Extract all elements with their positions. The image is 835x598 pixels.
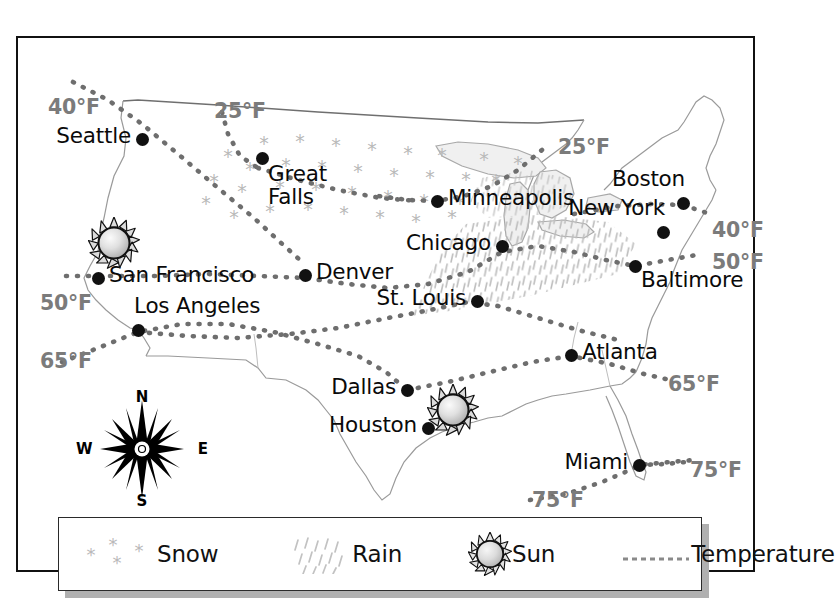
city-dot-icon: [92, 272, 105, 285]
svg-text:*: *: [437, 144, 447, 166]
city-dot-icon: [136, 133, 149, 146]
city-dot-icon: [657, 226, 670, 239]
city-label: Seattle: [56, 126, 131, 146]
svg-text:*: *: [455, 192, 465, 214]
city-dot-icon: [565, 349, 578, 362]
svg-text:*: *: [295, 130, 305, 152]
compass-rose: N S W E: [76, 390, 208, 508]
city-label: Boston: [612, 169, 685, 189]
city-dot-icon: [633, 459, 646, 472]
svg-text:*: *: [461, 168, 471, 190]
svg-text:*: *: [229, 206, 239, 228]
city-label: San Francisco: [109, 265, 254, 285]
svg-text:*: *: [513, 152, 523, 174]
compass-north-label: N: [136, 388, 149, 406]
snow-icon: * * * *: [81, 537, 157, 571]
compass-south-label: S: [137, 492, 148, 510]
city-dot-icon: [132, 324, 145, 337]
svg-text:*: *: [135, 540, 144, 561]
city-label: Minneapolis: [448, 188, 574, 208]
temperature-label: 40°F: [712, 218, 764, 242]
svg-text:*: *: [353, 160, 363, 182]
svg-text:*: *: [311, 178, 321, 200]
svg-text:*: *: [403, 142, 413, 164]
city-label: Atlanta: [582, 342, 658, 362]
svg-text:*: *: [479, 148, 489, 170]
temperature-label: 50°F: [712, 250, 764, 274]
city-label: Miami: [564, 452, 628, 472]
legend-item-sun: Sun: [468, 518, 555, 590]
compass-east-label: E: [198, 440, 208, 458]
temperature-label: 25°F: [558, 135, 610, 159]
temperature-label: 65°F: [668, 372, 720, 396]
city-label: Great Falls: [268, 162, 327, 208]
city-label: Baltimore: [641, 270, 743, 290]
svg-text:*: *: [275, 176, 285, 198]
city-dot-icon: [677, 197, 690, 210]
sun-icon: [468, 532, 512, 576]
temperature-label: 75°F: [532, 488, 584, 512]
svg-text:*: *: [87, 544, 96, 565]
svg-text:*: *: [223, 145, 233, 167]
temperature-label: 40°F: [48, 95, 100, 119]
city-dot-icon: [256, 152, 269, 165]
svg-text:*: *: [375, 206, 385, 228]
city-label: Denver: [316, 262, 393, 282]
legend-label-snow: Snow: [157, 541, 218, 567]
map-legend: * * * * Snow: [58, 517, 702, 591]
svg-text:*: *: [447, 206, 457, 228]
temperature-label: 25°F: [214, 99, 266, 123]
svg-text:*: *: [331, 134, 341, 156]
city-dot-icon: [299, 269, 312, 282]
temperature-label: 75°F: [690, 458, 742, 482]
svg-text:*: *: [281, 154, 291, 176]
compass-star-icon: [76, 390, 208, 508]
svg-text:*: *: [245, 158, 255, 180]
city-label: Los Angeles: [134, 296, 260, 316]
city-label: Chicago: [406, 233, 491, 253]
svg-text:*: *: [265, 200, 275, 222]
svg-text:*: *: [113, 552, 122, 571]
svg-text:*: *: [389, 164, 399, 186]
svg-text:*: *: [303, 198, 313, 220]
svg-text:*: *: [209, 170, 219, 192]
legend-item-rain: Rain: [290, 518, 402, 590]
svg-text:*: *: [201, 192, 211, 214]
city-dot-icon: [431, 195, 444, 208]
city-dot-icon: [496, 240, 509, 253]
temperature-label: 50°F: [40, 291, 92, 315]
svg-text:*: *: [419, 190, 429, 212]
legend-label-sun: Sun: [512, 541, 555, 567]
svg-text:*: *: [317, 156, 327, 178]
svg-text:*: *: [347, 182, 357, 204]
svg-text:*: *: [425, 166, 435, 188]
city-label: New York: [568, 198, 665, 218]
svg-text:*: *: [491, 170, 501, 192]
svg-text:*: *: [411, 210, 421, 232]
legend-item-snow: * * * * Snow: [81, 518, 218, 590]
compass-west-label: W: [76, 440, 93, 458]
city-dot-icon: [471, 295, 484, 308]
temperature-icon: [621, 549, 691, 559]
sun-icon: [88, 217, 140, 269]
legend-label-rain: Rain: [352, 541, 402, 567]
city-dot-icon: [629, 260, 642, 273]
svg-text:*: *: [259, 132, 269, 154]
legend-item-temperature: Temperature: [621, 518, 835, 590]
city-label: St. Louis: [376, 288, 466, 308]
sun-icon: [427, 384, 479, 436]
svg-text:*: *: [339, 202, 349, 224]
city-dot-icon: [422, 422, 435, 435]
svg-text:*: *: [237, 180, 247, 202]
city-dot-icon: [401, 384, 414, 397]
city-label: Dallas: [331, 377, 396, 397]
city-label: Houston: [329, 415, 417, 435]
svg-text:*: *: [367, 138, 377, 160]
temperature-label: 65°F: [40, 349, 92, 373]
weather-map: ** ** ** * ** ** ** ** ** ** ** ** * ** …: [16, 36, 755, 572]
rain-icon: [290, 534, 352, 574]
svg-text:*: *: [383, 186, 393, 208]
legend-label-temperature: Temperature: [691, 541, 835, 567]
